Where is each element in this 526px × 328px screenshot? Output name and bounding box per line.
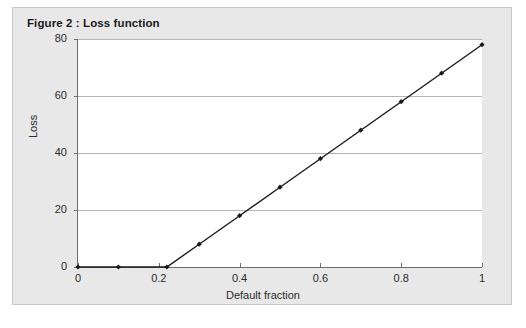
data-point-marker	[75, 264, 80, 269]
loss-line	[78, 45, 482, 267]
loss-series-plot	[13, 8, 513, 306]
loss-markers	[75, 42, 484, 270]
figure-panel: Figure 2 : Loss function 020406080 00.20…	[12, 7, 512, 305]
data-point-marker	[116, 264, 121, 269]
